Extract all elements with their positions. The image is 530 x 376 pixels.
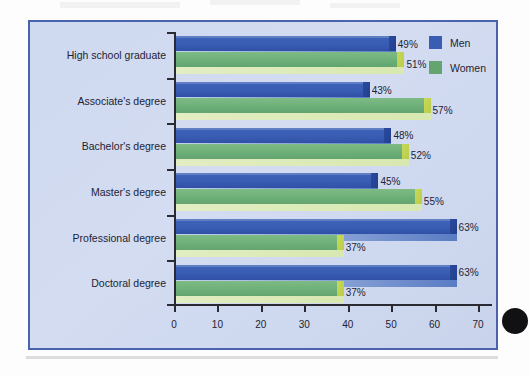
bar-men xyxy=(176,82,370,97)
bar-face xyxy=(176,52,397,67)
y-axis-tick xyxy=(167,169,175,171)
bar-shelf xyxy=(176,159,409,166)
bar-men xyxy=(176,173,378,188)
legend-label-women: Women xyxy=(450,62,486,74)
bar-value-label: 57% xyxy=(433,104,453,115)
x-axis-tick-label: 70 xyxy=(472,319,483,330)
bar-end-cap xyxy=(397,52,404,67)
bar-value-label: 51% xyxy=(406,58,426,69)
bar-value-label: 63% xyxy=(459,221,479,232)
bar-end-cap xyxy=(371,173,378,188)
bar-women xyxy=(176,189,422,204)
category-label: High school graduate xyxy=(67,49,166,61)
x-axis-tick xyxy=(435,306,437,312)
bar-end-cap xyxy=(337,235,344,250)
bar-face xyxy=(176,36,389,51)
bar-end-cap xyxy=(389,36,396,51)
scan-smudge xyxy=(60,2,180,8)
x-axis-tick-label: 40 xyxy=(342,319,353,330)
bar-value-label: 43% xyxy=(372,84,392,95)
bar-value-label: 55% xyxy=(424,195,444,206)
bar-face xyxy=(176,235,337,250)
x-axis-tick-label: 0 xyxy=(171,319,177,330)
bar-face xyxy=(176,98,424,113)
bar-face xyxy=(176,189,415,204)
bar-face xyxy=(176,219,450,234)
bar-value-label: 48% xyxy=(393,130,413,141)
x-axis-tick-label: 50 xyxy=(386,319,397,330)
category-label: Professional degree xyxy=(73,232,166,244)
x-axis-tick-label: 10 xyxy=(212,319,223,330)
bar-value-label: 45% xyxy=(380,175,400,186)
bar-end-cap xyxy=(363,82,370,97)
scan-smudge xyxy=(210,0,300,5)
category-label: Bachelor's degree xyxy=(82,140,166,152)
x-axis-tick-label: 30 xyxy=(299,319,310,330)
x-axis-tick xyxy=(261,306,263,312)
x-axis-tick xyxy=(217,306,219,312)
x-axis-line xyxy=(174,304,492,306)
bar-value-label: 37% xyxy=(346,287,366,298)
y-axis-tick xyxy=(167,78,175,80)
category-label: Master's degree xyxy=(91,186,166,198)
bar-value-label: 63% xyxy=(459,267,479,278)
y-axis-cap-top xyxy=(167,32,175,34)
chart-figure: 010203040506070 49%51%43%57%48%52%45%55%… xyxy=(28,20,498,350)
legend-swatch-women-icon xyxy=(429,61,442,74)
category-label: Doctoral degree xyxy=(91,277,166,289)
bar-end-cap xyxy=(415,189,422,204)
bar-shelf xyxy=(176,67,404,74)
x-axis-tick xyxy=(304,306,306,312)
bar-face xyxy=(176,82,363,97)
bar-end-cap xyxy=(402,144,409,159)
legend-item-men: Men xyxy=(429,36,486,49)
chart-legend: Men Women xyxy=(429,36,486,74)
bar-men xyxy=(176,219,457,234)
legend-label-men: Men xyxy=(450,37,470,49)
x-axis-tick xyxy=(174,306,176,312)
scanned-page: 010203040506070 49%51%43%57%48%52%45%55%… xyxy=(0,0,530,376)
bar-men xyxy=(176,36,396,51)
page-bottom-rule xyxy=(26,356,498,359)
bar-end-cap xyxy=(450,265,457,280)
x-axis-tick xyxy=(348,306,350,312)
bar-end-cap xyxy=(424,98,431,113)
scan-artifact-blob-icon xyxy=(502,308,528,334)
x-axis-tick xyxy=(478,306,480,312)
bar-face xyxy=(176,265,450,280)
category-label: Associate's degree xyxy=(78,95,166,107)
bar-end-cap xyxy=(450,219,457,234)
bar-value-label: 49% xyxy=(398,38,418,49)
bar-face xyxy=(176,281,337,296)
bar-shelf xyxy=(176,204,422,211)
bar-end-cap xyxy=(384,128,391,143)
bar-face xyxy=(176,128,384,143)
bar-men xyxy=(176,128,391,143)
bar-women xyxy=(176,98,431,113)
bar-shelf xyxy=(176,296,344,303)
bar-value-label: 52% xyxy=(411,150,431,161)
bar-men xyxy=(176,265,457,280)
x-axis-tick-label: 60 xyxy=(429,319,440,330)
y-axis-tick xyxy=(167,123,175,125)
y-axis-tick xyxy=(167,260,175,262)
bar-women xyxy=(176,235,344,250)
bar-shelf xyxy=(176,250,344,257)
y-axis-tick xyxy=(167,215,175,217)
bar-shelf xyxy=(176,113,431,120)
x-axis-tick xyxy=(391,306,393,312)
legend-swatch-men-icon xyxy=(429,36,442,49)
x-axis-tick-label: 20 xyxy=(255,319,266,330)
scan-smudge xyxy=(330,3,400,8)
bar-women xyxy=(176,281,344,296)
bar-women xyxy=(176,52,404,67)
bar-women xyxy=(176,144,409,159)
legend-item-women: Women xyxy=(429,61,486,74)
bar-value-label: 37% xyxy=(346,241,366,252)
bar-end-cap xyxy=(337,281,344,296)
bar-face xyxy=(176,173,371,188)
bar-face xyxy=(176,144,402,159)
